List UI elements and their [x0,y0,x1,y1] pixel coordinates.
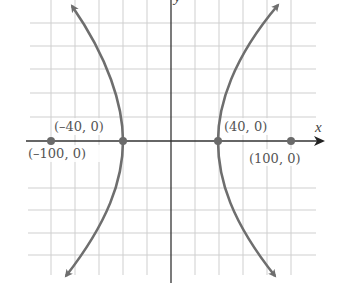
grid [28,0,316,275]
x-axis-label: x [314,119,322,135]
hyperbola-graph: (–40, 0) (40, 0) (–100, 0) (100, 0) x y [0,0,341,286]
vertex-right-label: (40, 0) [224,119,267,134]
focus-right-point [287,137,295,145]
y-axis-label: y [172,0,181,5]
focus-left-label: (–100, 0) [28,146,86,161]
vertex-left-point [119,137,127,145]
focus-left-point [47,137,55,145]
vertex-right-point [214,137,222,145]
focus-right-label: (100, 0) [249,151,301,166]
vertex-left-label: (–40, 0) [54,119,104,134]
